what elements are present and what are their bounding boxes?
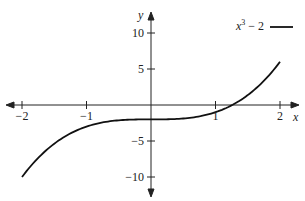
y-tick-label: −10 [125, 170, 144, 184]
x-tick-label: −1 [80, 109, 93, 123]
x-tick-label: −2 [16, 109, 29, 123]
x-axis-right-arrow-icon [291, 102, 299, 108]
legend: x3 − 2 [235, 18, 293, 33]
y-axis-down-arrow-icon [148, 189, 154, 197]
tick-labels: −2−112105−5−10xy [16, 8, 299, 184]
x-axis-left-arrow-icon [6, 102, 14, 108]
y-tick-label: 10 [132, 26, 144, 40]
cubic-function-chart: −2−112105−5−10xy x3 − 2 [0, 0, 305, 201]
y-tick-label: −5 [131, 134, 144, 148]
x-tick-label: 2 [277, 109, 283, 123]
axes [6, 12, 299, 197]
y-axis-up-arrow-icon [148, 12, 154, 20]
legend-label: x3 − 2 [235, 18, 264, 33]
y-tick-label: 5 [138, 62, 144, 76]
x-tick-label: 1 [213, 109, 219, 123]
x-axis-label: x [292, 110, 299, 124]
y-axis-label: y [137, 8, 144, 22]
